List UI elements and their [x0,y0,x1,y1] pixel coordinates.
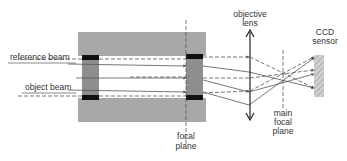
right-bottom-cap [186,95,203,100]
left-top-cap [82,55,99,60]
focal-plane-label-2: plane [176,141,197,151]
reference-beam-label: reference beam [10,52,70,62]
focal-plane-label-1: focal [177,131,195,141]
left-bottom-cap [82,95,99,100]
objective-lens [246,30,254,120]
ccd-sensor-label-2: sensor [312,36,338,46]
ccd-sensor [314,55,324,97]
optical-setup-diagram: reference beam object beam focal plane o… [0,0,347,161]
objective-lens-label-2: lens [242,18,258,28]
right-optical-element [186,56,203,98]
right-top-cap [186,54,203,59]
object-beam-label: object beam [25,82,71,92]
top-housing-block [78,32,206,56]
main-focal-plane-label-3: plane [273,126,294,136]
left-optical-element [82,56,99,98]
bottom-housing-block [78,98,206,122]
